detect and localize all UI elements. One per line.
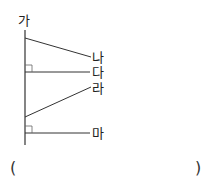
right-angle-marker-ma <box>25 126 32 133</box>
line-na <box>25 38 91 57</box>
label-da: 다 <box>92 66 104 79</box>
label-ga: 가 <box>18 14 30 27</box>
answer-close-paren: ) <box>195 160 201 176</box>
label-ma: 마 <box>92 127 104 140</box>
label-na: 나 <box>92 51 104 64</box>
answer-blank[interactable] <box>24 160 189 178</box>
answer-open-paren: ( <box>10 160 16 176</box>
label-ra: 라 <box>92 82 104 95</box>
right-angle-marker-da <box>25 65 32 72</box>
line-ra <box>25 87 91 117</box>
